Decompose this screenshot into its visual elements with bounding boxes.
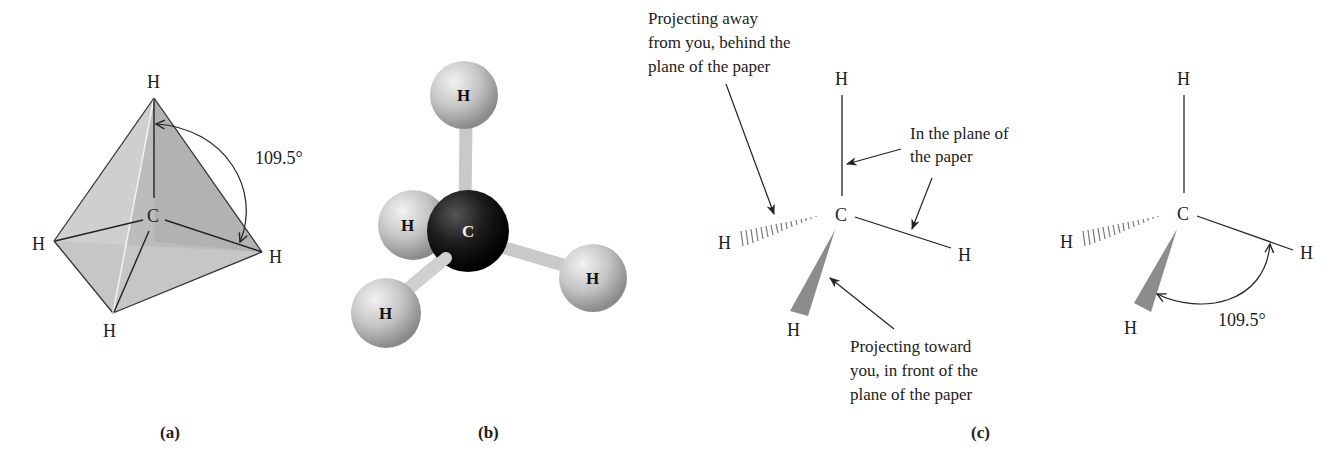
atom-label-h-right: H — [269, 247, 282, 267]
hashed-bond-icon — [1083, 216, 1158, 246]
atom-label-h-wedge: H — [1124, 318, 1137, 338]
atom-label-h-top: H — [835, 69, 848, 89]
arrow-toward-icon — [830, 278, 894, 329]
methane-figure: H C H H H 109.5° (a) H C H H H (b) — [0, 0, 1340, 465]
h-atom-left-label: H — [401, 216, 414, 235]
hashed-bond-icon — [741, 216, 816, 246]
arrow-away-icon — [726, 84, 774, 214]
panel-b-ball-and-stick: H C H H H (b) — [351, 61, 627, 442]
annotation-toward: Projecting toward you, in front of the p… — [850, 337, 982, 404]
atom-label-c: C — [1177, 204, 1189, 224]
h-atom-right-label: H — [586, 269, 599, 288]
tetra-face-bottom — [54, 241, 262, 313]
annotation-away: Projecting away from you, behind the pla… — [648, 9, 795, 76]
caption-a: (a) — [160, 423, 180, 442]
angle-label: 109.5° — [1218, 310, 1266, 330]
c-atom-label: C — [462, 222, 474, 241]
caption-b: (b) — [478, 423, 499, 442]
panel-c-left-wedge-dash: H C H H H Projecting away from you, behi… — [648, 9, 1013, 442]
atom-label-h-right: H — [958, 245, 971, 265]
atom-label-h-top: H — [147, 72, 160, 92]
atom-label-c: C — [147, 206, 159, 226]
atom-label-h-bottom: H — [103, 321, 116, 341]
angle-label: 109.5° — [255, 148, 303, 168]
atom-label-h-hashed: H — [718, 233, 731, 253]
atom-label-h-right: H — [1300, 243, 1313, 263]
atom-label-h-hashed: H — [1060, 232, 1073, 252]
atom-label-c: C — [835, 205, 847, 225]
panel-c-right-wedge-dash: H C H H H 109.5° — [1060, 69, 1313, 338]
angle-arc-icon — [1157, 244, 1270, 304]
solid-wedge-icon — [790, 230, 835, 316]
h-atom-top-label: H — [457, 86, 470, 105]
h-atom-bottom-label: H — [379, 304, 392, 323]
panel-a-tetrahedron: H C H H H 109.5° (a) — [32, 72, 303, 442]
atom-label-h-wedge: H — [787, 320, 800, 340]
arrow-plane-right-icon — [912, 178, 932, 229]
atom-label-h-top: H — [1177, 69, 1190, 89]
atom-label-h-left: H — [32, 234, 45, 254]
caption-c: (c) — [971, 423, 990, 442]
arrow-plane-vertical-icon — [847, 149, 901, 164]
annotation-in-plane: In the plane of the paper — [910, 124, 1013, 166]
